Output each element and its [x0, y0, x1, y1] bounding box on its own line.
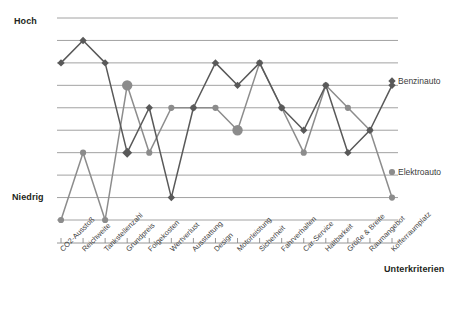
data-point	[80, 150, 86, 156]
data-point	[146, 150, 152, 156]
data-point	[190, 104, 197, 111]
series-label-benzinauto: Benzinauto	[398, 76, 441, 86]
legend-marker-elektroauto	[389, 169, 395, 175]
data-point	[212, 105, 218, 111]
x-axis-title: Unterkriterien	[384, 264, 444, 274]
data-point	[168, 194, 175, 201]
data-point	[389, 194, 395, 200]
legend-marker-benzinauto	[388, 77, 395, 84]
y-axis-low-label: Niedrig	[12, 192, 44, 202]
data-point	[301, 150, 307, 156]
chart-container: Hoch Niedrig Unterkriterien Benzinauto E…	[0, 0, 473, 320]
series-label-elektroauto: Elektroauto	[398, 167, 441, 177]
data-point	[122, 80, 132, 90]
data-point	[345, 105, 351, 111]
data-point	[168, 105, 174, 111]
data-point	[122, 148, 132, 158]
data-point	[146, 104, 153, 111]
data-point	[58, 217, 64, 223]
y-axis-high-label: Hoch	[14, 16, 37, 26]
data-point	[232, 125, 242, 135]
